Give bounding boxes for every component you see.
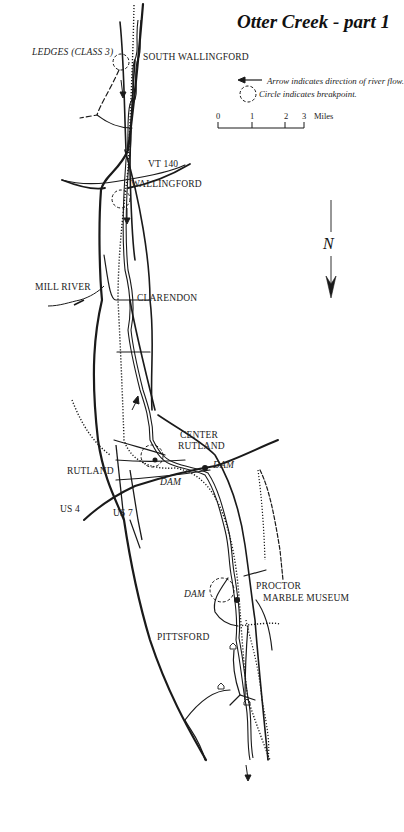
map-title: Otter Creek - part 1 xyxy=(237,11,390,33)
scale-tick-3: 3 xyxy=(302,111,306,121)
label-center-rutland-1: CENTER xyxy=(180,431,218,441)
scale-bar xyxy=(218,122,304,128)
scale-tick-2: 2 xyxy=(284,111,288,121)
scale-tick-1: 1 xyxy=(250,111,254,121)
label-wallingford: WALLINGFORD xyxy=(131,180,202,190)
legend-arrow-text: Arrow indicates direction of river flow. xyxy=(267,76,404,86)
label-vt140: VT 140 xyxy=(148,160,178,170)
label-clarendon: CLARENDON xyxy=(137,294,197,304)
label-mill-river: MILL RIVER xyxy=(35,283,91,293)
label-ledges: LEDGES (CLASS 3) xyxy=(32,48,113,58)
label-us7: US 7 xyxy=(113,509,133,519)
label-dam-proctor: DAM xyxy=(184,590,205,600)
label-dam-center-rutland: DAM xyxy=(213,461,234,471)
railroad xyxy=(72,5,280,760)
legend-circle-text: Circle indicates breakpoint. xyxy=(259,89,357,99)
label-south-wallingford: SOUTH WALLINGFORD xyxy=(143,53,249,63)
label-pittsford: PITTSFORD xyxy=(157,633,209,643)
scale-unit: Miles xyxy=(314,111,333,121)
label-center-rutland-2: RUTLAND xyxy=(178,442,225,452)
label-us4: US 4 xyxy=(60,505,80,515)
label-dam-rutland: DAM xyxy=(160,478,181,488)
north-label: N xyxy=(323,235,334,253)
label-proctor: PROCTOR xyxy=(256,582,301,592)
highway-us7 xyxy=(94,4,206,760)
label-rutland: RUTLAND xyxy=(67,467,114,477)
label-marble-museum: MARBLE MUSEUM xyxy=(263,594,349,604)
scale-tick-0: 0 xyxy=(216,111,220,121)
